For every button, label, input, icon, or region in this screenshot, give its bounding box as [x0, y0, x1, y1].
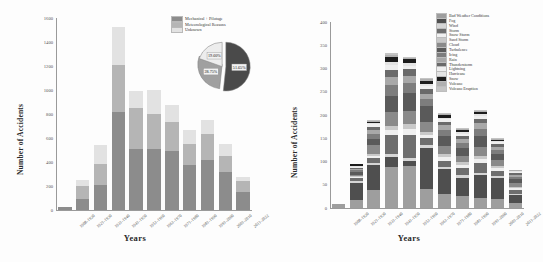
- bar-segment-turbulence: [438, 136, 451, 146]
- pie-slice-value: 19.60%: [208, 53, 221, 58]
- bar-segment-storm: [474, 163, 487, 173]
- x-tick-1971-1980: 1971-1980: [183, 213, 200, 229]
- x-tick-1991-2000: 1991-2000: [218, 213, 235, 229]
- y-tick-250: 250: [305, 89, 327, 94]
- x-tick-1991-2000: 1991-2000: [490, 211, 507, 227]
- y-tick-400: 400: [31, 160, 53, 165]
- x-tick-1951-1960: 1951-1960: [421, 211, 438, 227]
- y-tick-1200: 1200: [31, 64, 53, 69]
- bar-segment-fog: [491, 178, 504, 198]
- x-tick-1921-1930: 1921-1930: [96, 213, 113, 229]
- bar-2011-2022: [509, 22, 522, 208]
- bar-1931-1940: [94, 18, 108, 210]
- legend-swatch-icon: [171, 27, 183, 33]
- bar-segment-icing: [403, 83, 416, 92]
- bar-segment-mechanical-pilotage: [58, 207, 72, 210]
- bar-segment-bad-weather-conditions: [438, 194, 451, 208]
- bar-segment-mechanical-pilotage: [76, 199, 90, 210]
- bar-segment-mechanical-pilotage: [183, 165, 197, 210]
- legend-item-unknown[interactable]: Unknown: [171, 28, 226, 32]
- right-bar-group: [332, 22, 522, 208]
- x-tick-1971-1980: 1971-1980: [456, 211, 473, 227]
- y-tick-800: 800: [31, 112, 53, 117]
- bar-segment-bad-weather-conditions: [385, 167, 398, 208]
- bar-1961-1970: [420, 22, 433, 208]
- y-tick-400: 400: [305, 20, 327, 25]
- x-tick-1921-1930: 1921-1930: [369, 211, 386, 227]
- x-tick-1951-1960: 1951-1960: [148, 213, 165, 229]
- x-tick-1908-1920: 1908-1920: [78, 213, 95, 229]
- y-tick-1600: 1600: [31, 16, 53, 21]
- bar-segment-unknown: [219, 144, 233, 156]
- bar-segment-thunderstorm: [385, 70, 398, 77]
- y-tick-0: 0: [31, 208, 53, 213]
- bar-segment-fog: [456, 178, 469, 196]
- chart-accidents-by-weather: Number of Accidents Years 05010015020025…: [272, 0, 543, 262]
- right-legend: Bad Weather ConditionsFogWindStormSnow S…: [436, 14, 489, 92]
- legend-label: Volcano Eruption: [449, 87, 478, 91]
- x-tick-1941-1950: 1941-1950: [130, 213, 147, 229]
- bar-segment-bad-weather-conditions: [474, 198, 487, 208]
- bar-segment-turbulence: [420, 106, 433, 122]
- bar-segment-fog: [509, 195, 522, 203]
- bar-segment-meteorological-reasons: [112, 65, 126, 111]
- left-x-axis-label: Years: [40, 233, 230, 243]
- y-tick-300: 300: [305, 66, 327, 71]
- bar-segment-unknown: [201, 120, 215, 134]
- bar-segment-cloud: [367, 145, 380, 153]
- legend-item-volcano-eruption[interactable]: Volcano Eruption: [436, 87, 489, 91]
- bar-segment-meteorological-reasons: [236, 181, 250, 192]
- bar-segment-mechanical-pilotage: [94, 185, 108, 210]
- bar-segment-mechanical-pilotage: [165, 151, 179, 210]
- legend-swatch-icon: [436, 86, 447, 92]
- bar-segment-fog: [474, 175, 487, 197]
- bar-segment-mechanical-pilotage: [236, 192, 250, 210]
- left-y-axis-line: [56, 18, 57, 210]
- bar-segment-bad-weather-conditions: [367, 190, 380, 208]
- bar-segment-mechanical-pilotage: [129, 149, 143, 210]
- bar-1971-1980: [165, 18, 179, 210]
- bar-segment-unknown: [129, 91, 143, 108]
- bar-segment-rain: [385, 77, 398, 85]
- pie-svg: 51.65%28.75%19.60%: [186, 36, 262, 98]
- bar-segment-unknown: [165, 105, 179, 123]
- bar-segment-cloud: [474, 147, 487, 156]
- bar-segment-mechanical-pilotage: [147, 149, 161, 210]
- bar-1908-1920: [58, 18, 72, 210]
- bar-segment-fog: [438, 169, 451, 194]
- bar-segment-fog: [367, 165, 380, 191]
- bar-segment-storm: [385, 135, 398, 155]
- bar-segment-unknown: [112, 27, 126, 65]
- y-tick-200: 200: [305, 113, 327, 118]
- x-tick-1961-1970: 1961-1970: [438, 211, 455, 227]
- x-tick-1908-1920: 1908-1920: [352, 211, 369, 227]
- bar-segment-meteorological-reasons: [219, 156, 233, 172]
- bar-segment-turbulence: [403, 93, 416, 112]
- x-tick-1961-1970: 1961-1970: [165, 213, 182, 229]
- x-tick-2001-2010: 2001-2010: [235, 213, 252, 229]
- bar-segment-fog: [420, 148, 433, 190]
- bar-segment-bad-weather-conditions: [509, 203, 522, 208]
- left-y-axis-label: Number of Accidents: [16, 104, 25, 175]
- right-y-axis-label: Number of Accidents: [290, 107, 299, 178]
- right-x-axis-label: Years: [314, 233, 504, 243]
- bar-segment-bad-weather-conditions: [420, 189, 433, 208]
- bar-segment-turbulence: [385, 96, 398, 113]
- bar-segment-meteorological-reasons: [76, 186, 90, 199]
- left-x-axis-line: [56, 210, 252, 211]
- x-tick-2011-2022: 2011-2022: [525, 211, 542, 227]
- pie-slice-value: 28.75%: [204, 69, 217, 74]
- x-tick-1941-1950: 1941-1950: [404, 211, 421, 227]
- bar-1951-1960: [403, 22, 416, 208]
- bar-segment-turbulence: [456, 148, 469, 156]
- legend-label: Bad Weather Conditions: [449, 14, 489, 18]
- bar-segment-storm: [403, 135, 416, 158]
- bar-segment-bad-weather-conditions: [456, 196, 469, 208]
- figure-pair: Number of Accidents Years 02004006008001…: [0, 0, 543, 262]
- bar-segment-meteorological-reasons: [165, 122, 179, 151]
- bar-segment-bad-weather-conditions: [403, 166, 416, 208]
- bar-segment-meteorological-reasons: [147, 114, 161, 149]
- pie-slice-value: 51.65%: [233, 65, 246, 70]
- bar-segment-rain: [403, 76, 416, 83]
- bar-segment-meteorological-reasons: [94, 164, 108, 185]
